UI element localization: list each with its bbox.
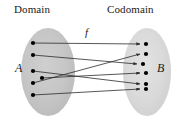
codomain-point-b1 bbox=[144, 42, 148, 46]
domain-point-a2 bbox=[31, 53, 35, 57]
domain-title: Domain bbox=[14, 3, 50, 15]
codomain-point-b3 bbox=[141, 62, 145, 66]
domain-point-a5 bbox=[31, 81, 35, 85]
domain-point-a3 bbox=[31, 69, 35, 73]
set-label-a: A bbox=[15, 61, 22, 76]
domain-ellipse bbox=[21, 28, 75, 116]
codomain-title: Codomain bbox=[107, 3, 154, 15]
codomain-point-b4 bbox=[144, 71, 148, 75]
diagram-canvas bbox=[0, 0, 181, 128]
codomain-point-b2 bbox=[144, 52, 148, 56]
function-mapping-figure: Domain Codomain A B f bbox=[0, 0, 181, 128]
codomain-point-b5 bbox=[144, 82, 148, 86]
set-label-b: B bbox=[157, 61, 164, 76]
domain-point-a1 bbox=[31, 41, 35, 45]
codomain-point-b6 bbox=[144, 87, 148, 91]
domain-point-a6 bbox=[31, 93, 35, 97]
function-label-f: f bbox=[85, 26, 88, 38]
domain-point-a4 bbox=[40, 76, 44, 80]
